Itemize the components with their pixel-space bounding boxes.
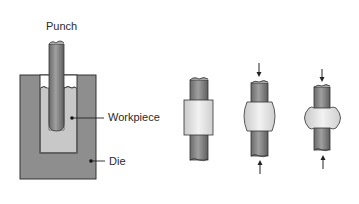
die-label: Die bbox=[109, 156, 126, 167]
stage-compressed bbox=[244, 63, 275, 174]
punch-broken-end bbox=[49, 41, 64, 44]
collar bbox=[184, 100, 213, 135]
up-arrow-icon bbox=[321, 155, 326, 169]
up-arrow-icon bbox=[258, 160, 263, 174]
barrelled-collar bbox=[244, 102, 275, 131]
down-arrow-icon bbox=[320, 69, 325, 82]
barrelled-collar bbox=[305, 107, 341, 129]
workpiece-label: Workpiece bbox=[108, 112, 160, 123]
punch-label: Punch bbox=[46, 21, 77, 32]
stage-initial bbox=[184, 78, 213, 161]
down-arrow-icon bbox=[257, 63, 262, 77]
stage-fully-compressed bbox=[305, 69, 341, 169]
punch bbox=[49, 44, 64, 131]
extrusion-assembly bbox=[20, 41, 105, 179]
